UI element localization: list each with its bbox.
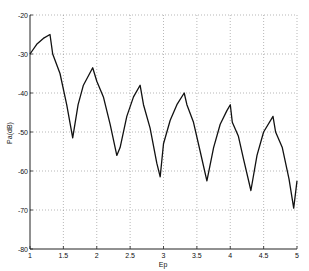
y-tick-label: -80 xyxy=(18,246,28,253)
x-axis-label: Ep xyxy=(159,261,168,269)
x-tick-label: 1 xyxy=(28,252,32,259)
y-tick-label: -60 xyxy=(18,168,28,175)
y-tick-label: -70 xyxy=(18,207,28,214)
y-tick-label: -40 xyxy=(18,90,28,97)
y-axis-label: Pa(dB) xyxy=(6,122,14,144)
x-tick-label: 5 xyxy=(295,252,299,259)
grid-lines xyxy=(30,15,297,249)
y-tick-label: -30 xyxy=(18,51,28,58)
x-tick-label: 2.5 xyxy=(125,252,135,259)
x-tick-label: 1.5 xyxy=(59,252,69,259)
y-tick-label: -50 xyxy=(18,129,28,136)
x-tick-label: 3 xyxy=(162,252,166,259)
x-tick-label: 2 xyxy=(95,252,99,259)
x-axis-ticks: 11.522.533.544.55 xyxy=(28,246,299,259)
line-chart: 11.522.533.544.55 -20-30-40-50-60-70-80 … xyxy=(0,0,309,271)
x-tick-label: 4 xyxy=(228,252,232,259)
y-tick-label: -20 xyxy=(18,12,28,19)
x-tick-label: 4.5 xyxy=(259,252,269,259)
y-axis-ticks: -20-30-40-50-60-70-80 xyxy=(18,12,33,253)
x-tick-label: 3.5 xyxy=(192,252,202,259)
